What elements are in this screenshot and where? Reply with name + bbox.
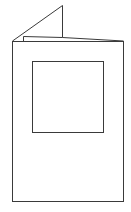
inner-page-edge xyxy=(24,37,124,42)
back-flap xyxy=(13,6,63,42)
greeting-card-diagram xyxy=(0,0,131,212)
aperture-window xyxy=(33,62,104,133)
front-panel xyxy=(13,42,124,202)
